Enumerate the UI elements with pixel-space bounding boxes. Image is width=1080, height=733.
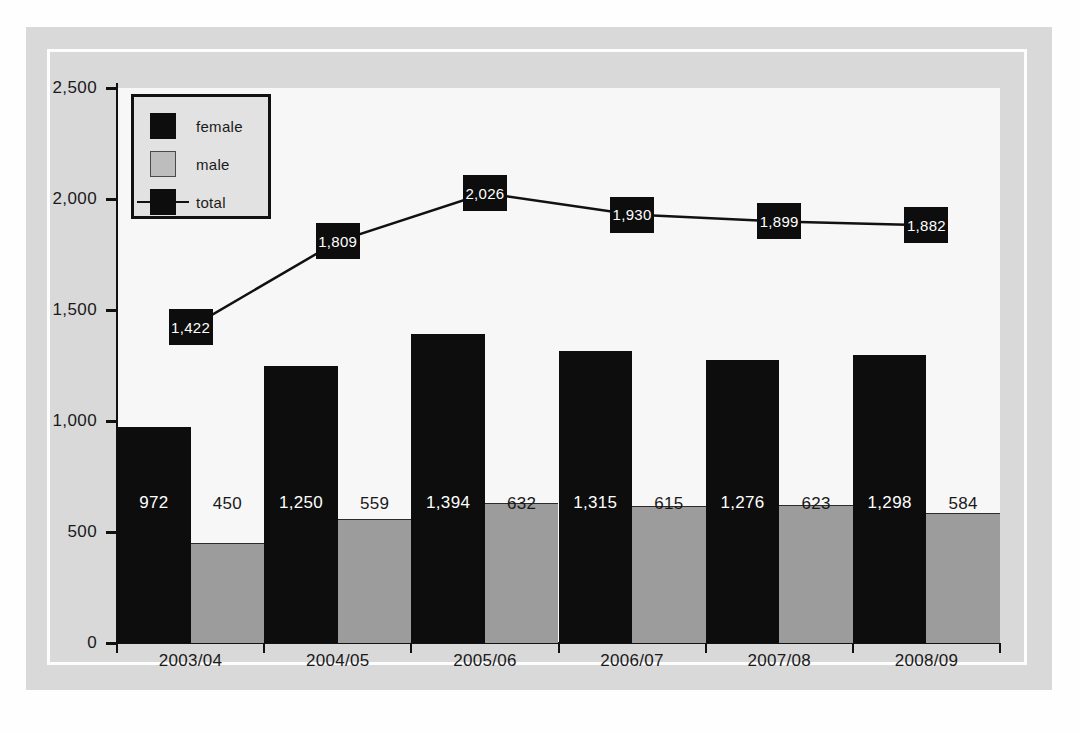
- y-axis-tick-label: 1,000: [26, 411, 97, 431]
- y-axis-tick: [106, 531, 117, 534]
- bar-female[interactable]: 972: [117, 427, 191, 643]
- bar-value-label: 450: [191, 494, 265, 514]
- bar-female[interactable]: 1,315: [559, 351, 633, 643]
- total-data-point-marker[interactable]: 1,930: [610, 197, 654, 233]
- bar-value-label: 632: [485, 494, 559, 514]
- total-data-point-marker[interactable]: 1,809: [316, 223, 360, 259]
- bar-value-label: 615: [632, 494, 706, 514]
- bar-value-label: 1,250: [264, 493, 338, 513]
- grouped-bar-and-line-chart: 2,5002,0001,5001,0005000 2003/042004/052…: [26, 27, 1000, 633]
- x-axis-category-label: 2006/07: [559, 651, 706, 671]
- x-axis-category-label: 2005/06: [411, 651, 558, 671]
- bar-value-label: 1,276: [706, 493, 780, 513]
- bar-male[interactable]: 559: [338, 519, 412, 643]
- y-axis-tick-label: 1,500: [26, 300, 97, 320]
- bar-male[interactable]: 584: [926, 513, 1000, 643]
- y-axis-tick: [106, 87, 117, 90]
- y-axis-tick-label: 0: [26, 633, 97, 653]
- y-axis-tick-label: 2,000: [26, 189, 97, 209]
- total-value-label: 1,930: [613, 206, 652, 223]
- chart-page: 2,5002,0001,5001,0005000 2003/042004/052…: [0, 0, 1080, 733]
- x-axis-category-label: 2004/05: [264, 651, 411, 671]
- total-value-label: 2,026: [465, 185, 504, 202]
- bar-female[interactable]: 1,298: [853, 355, 927, 643]
- legend-label-male: male: [196, 156, 230, 173]
- chart-legend: femalemaletotal: [131, 94, 271, 219]
- bar-value-label: 1,298: [853, 493, 927, 513]
- bar-value-label: 623: [779, 494, 853, 514]
- legend-label-total: total: [196, 194, 226, 211]
- bar-male[interactable]: 623: [779, 505, 853, 643]
- total-value-label: 1,882: [907, 217, 946, 234]
- total-value-label: 1,899: [760, 213, 799, 230]
- y-axis-tick-label: 2,500: [26, 78, 97, 98]
- bar-male[interactable]: 615: [632, 506, 706, 643]
- legend-swatch-female: [150, 113, 176, 139]
- bar-female[interactable]: 1,394: [411, 334, 485, 643]
- legend-label-female: female: [196, 118, 243, 135]
- bar-value-label: 972: [117, 493, 191, 513]
- bar-female[interactable]: 1,276: [706, 360, 780, 643]
- bar-female[interactable]: 1,250: [264, 366, 338, 644]
- total-data-point-marker[interactable]: 1,899: [757, 203, 801, 239]
- y-axis-tick: [106, 420, 117, 423]
- bar-value-label: 584: [926, 494, 1000, 514]
- x-axis-category-label: 2003/04: [117, 651, 264, 671]
- bar-male[interactable]: 632: [485, 503, 559, 643]
- bar-value-label: 559: [338, 494, 412, 514]
- y-axis-tick-label: 500: [26, 522, 97, 542]
- x-axis-category-label: 2007/08: [706, 651, 853, 671]
- x-axis-category-label: 2008/09: [853, 651, 1000, 671]
- bar-value-label: 1,394: [411, 493, 485, 513]
- bar-value-label: 1,315: [559, 493, 633, 513]
- legend-item-total[interactable]: total: [134, 183, 268, 221]
- total-data-point-marker[interactable]: 2,026: [463, 175, 507, 211]
- total-data-point-marker[interactable]: 1,882: [904, 207, 948, 243]
- total-value-label: 1,422: [171, 319, 210, 336]
- y-axis-tick: [106, 309, 117, 312]
- total-data-point-marker[interactable]: 1,422: [169, 309, 213, 345]
- legend-swatch-male: [150, 151, 176, 177]
- total-value-label: 1,809: [318, 233, 357, 250]
- bar-male[interactable]: 450: [191, 543, 265, 643]
- legend-item-male[interactable]: male: [134, 145, 268, 183]
- y-axis-tick: [106, 198, 117, 201]
- legend-swatch-total: [150, 189, 176, 215]
- legend-item-female[interactable]: female: [134, 107, 268, 145]
